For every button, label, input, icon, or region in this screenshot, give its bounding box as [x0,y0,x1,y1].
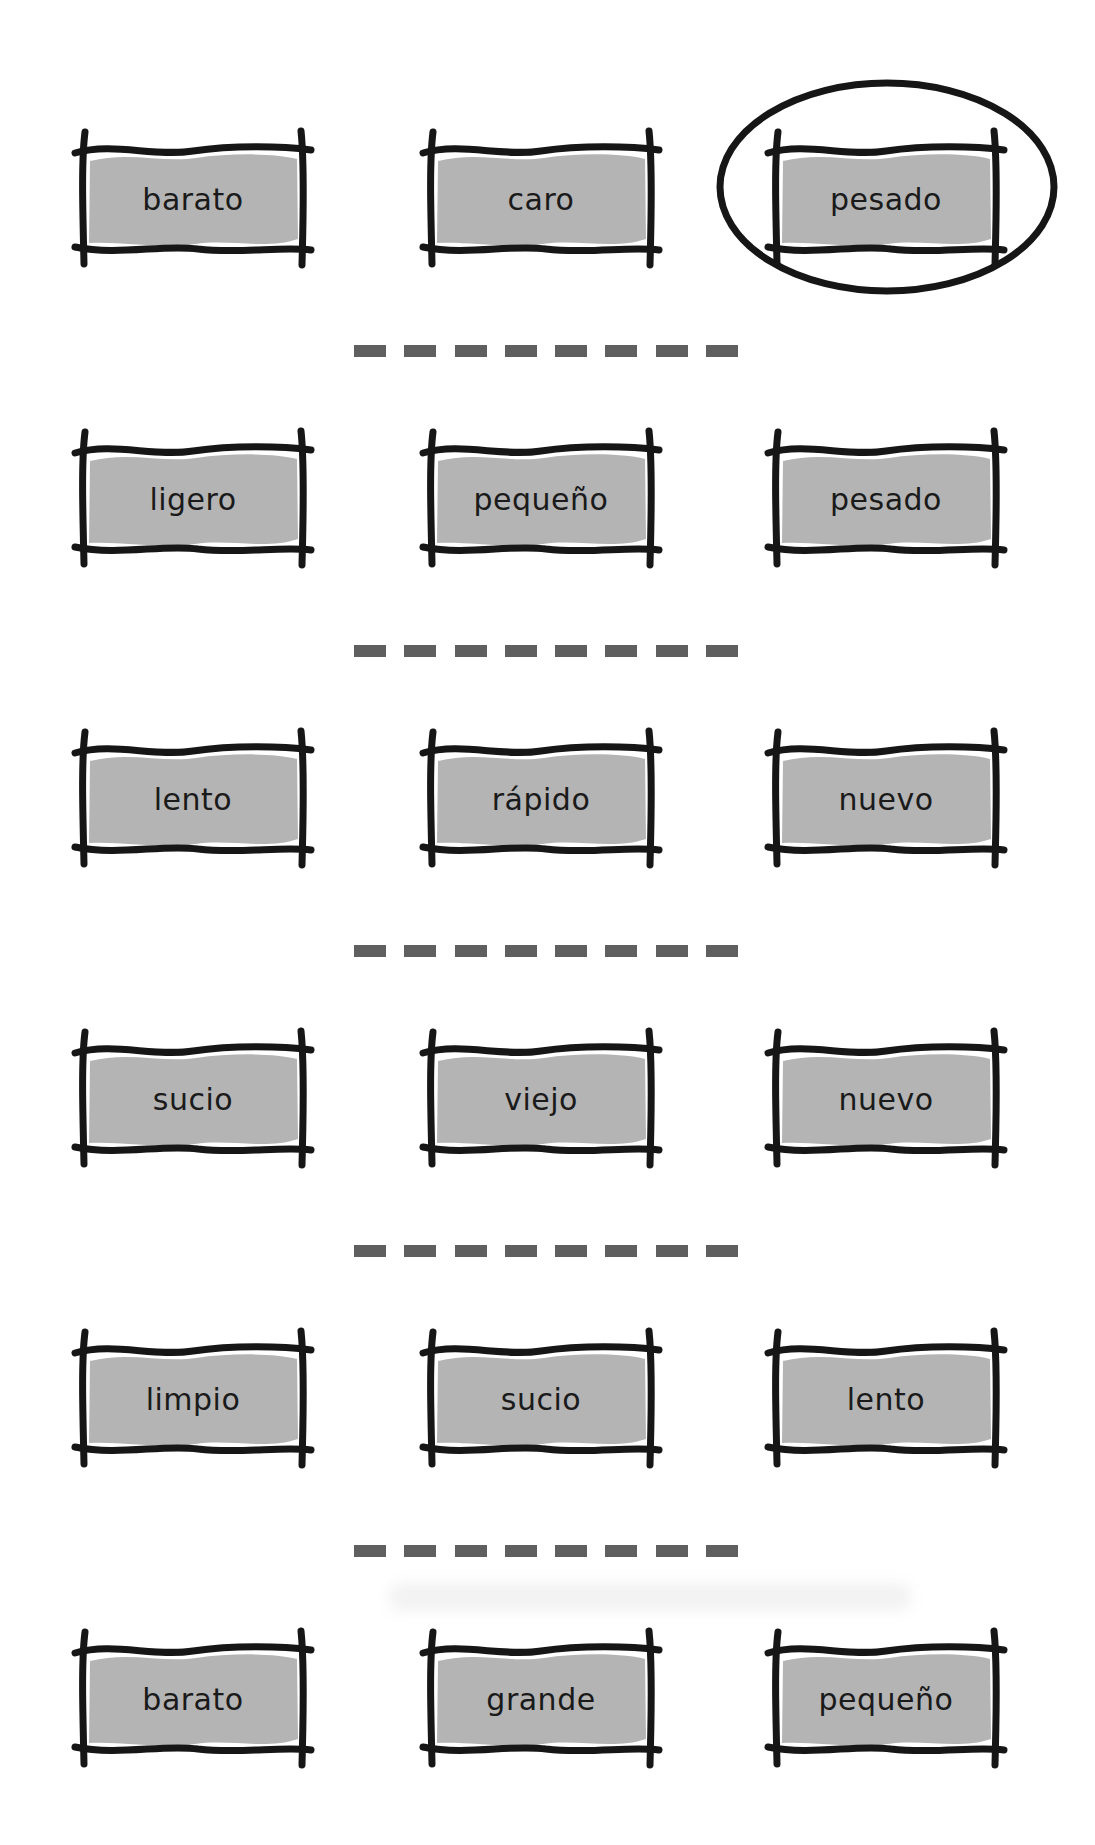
word-card: grande [416,1623,666,1773]
dash [706,645,738,657]
word-card: barato [68,123,318,273]
dash [455,945,487,957]
row-separator [354,645,738,657]
word-card-label: sucio [416,1323,666,1473]
word-card: rápido [416,723,666,873]
dash [404,645,436,657]
word-card: limpio [68,1323,318,1473]
dash [605,1245,637,1257]
word-card: pesado [761,423,1011,573]
dash [404,1545,436,1557]
dash [555,1245,587,1257]
dash [354,345,386,357]
word-card-label: pesado [761,423,1011,573]
dash [706,1245,738,1257]
dash [404,1245,436,1257]
dash [354,645,386,657]
scan-show-through-artifact [390,1583,910,1611]
dash [706,1545,738,1557]
dash [455,1545,487,1557]
word-card: pequeño [416,423,666,573]
row-separator [354,945,738,957]
dash [656,345,688,357]
dash [354,1545,386,1557]
word-card-label: nuevo [761,723,1011,873]
word-card: nuevo [761,723,1011,873]
word-card-label: lento [68,723,318,873]
dash [404,945,436,957]
dash [656,945,688,957]
word-card-label: limpio [68,1323,318,1473]
dash [455,345,487,357]
dash [605,345,637,357]
word-card: sucio [68,1023,318,1173]
dash [505,645,537,657]
word-card-label: lento [761,1323,1011,1473]
dash [404,345,436,357]
word-card-circled: pesado [761,123,1011,273]
word-card-label: viejo [416,1023,666,1173]
dash [505,345,537,357]
worksheet-page: barato caro pesado ligero pequeño pesado… [0,0,1095,1845]
word-card-label: sucio [68,1023,318,1173]
word-card: viejo [416,1023,666,1173]
dash [656,645,688,657]
dash [605,645,637,657]
word-card-label: grande [416,1623,666,1773]
dash [354,1245,386,1257]
dash [555,645,587,657]
dash [455,1245,487,1257]
dash [505,1245,537,1257]
dash [605,1545,637,1557]
dash [656,1245,688,1257]
word-card-label: pequeño [416,423,666,573]
dash [706,345,738,357]
row-separator [354,1545,738,1557]
dash [605,945,637,957]
dash [354,945,386,957]
word-card: sucio [416,1323,666,1473]
word-card: barato [68,1623,318,1773]
word-card-label: barato [68,123,318,273]
dash [505,1545,537,1557]
word-card: ligero [68,423,318,573]
dash [555,345,587,357]
dash [656,1545,688,1557]
dash [555,945,587,957]
row-separator [354,345,738,357]
word-card: lento [761,1323,1011,1473]
word-card-label: pequeño [761,1623,1011,1773]
word-card-label: pesado [761,123,1011,273]
row-separator [354,1245,738,1257]
dash [555,1545,587,1557]
word-card: pequeño [761,1623,1011,1773]
word-card-label: ligero [68,423,318,573]
word-card-label: caro [416,123,666,273]
word-card: nuevo [761,1023,1011,1173]
word-card: lento [68,723,318,873]
word-card-label: nuevo [761,1023,1011,1173]
word-card-label: rápido [416,723,666,873]
word-card-label: barato [68,1623,318,1773]
dash [706,945,738,957]
dash [455,645,487,657]
dash [505,945,537,957]
word-card: caro [416,123,666,273]
